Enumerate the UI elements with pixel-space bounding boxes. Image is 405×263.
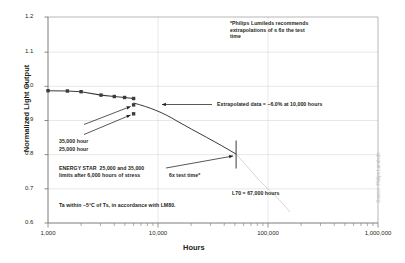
annotation-limit-35000: 35,000 hour <box>59 138 88 145</box>
y-tick-label: 0.7 <box>25 185 33 191</box>
annotation-footnote-6x: *Philips Lumileds recommends extrapolati… <box>230 20 308 40</box>
x-axis-ticks <box>48 223 378 228</box>
annotation-extrapolated-data: Extrapolated data = –6.0% at 10,000 hour… <box>217 101 322 108</box>
x-tick-label: 10,000 <box>143 230 173 236</box>
chart-root: 1.2 1.1 1.0 0.9 0.8 0.7 0.6 1,000 10,000… <box>0 0 405 263</box>
axis-lines <box>48 17 378 223</box>
chart-canvas <box>0 0 405 263</box>
x-tick-label: 1,000 <box>35 230 61 236</box>
x-tick-label: 100,000 <box>251 230 285 236</box>
y-axis-ticks <box>45 17 49 223</box>
plot-frame <box>48 17 378 223</box>
annotation-ta-note: Ta within –5°C of Ts, in accordance with… <box>59 202 176 209</box>
annotation-l70-value: L70 = 67,000 hours <box>232 190 279 197</box>
annotation-leader-lines <box>84 105 233 169</box>
y-axis-title: Normalized Light Output <box>22 39 31 179</box>
source-credit: Source: Philips Lumileds <box>376 123 381 233</box>
annotation-energy-star-limits: ENERGY STAR 25,000 and 35,000 limits aft… <box>59 165 144 178</box>
annotation-limit-25000: 25,000 hour <box>59 146 88 153</box>
y-tick-label: 1.2 <box>25 13 33 19</box>
series-measured <box>48 91 134 99</box>
annotation-six-x-test-time: 6x test time* <box>169 172 200 179</box>
x-axis-title: Hours <box>183 243 205 252</box>
series-beyond-6x <box>236 154 290 212</box>
energy-star-limit-markers <box>132 103 135 115</box>
series-extrapolated <box>134 103 237 154</box>
y-tick-label: 0.6 <box>25 219 33 225</box>
